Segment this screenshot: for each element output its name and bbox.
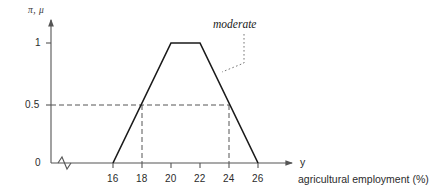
- moderate-set-label: moderate: [213, 19, 256, 31]
- y-axis-label: π, μ: [28, 6, 44, 16]
- x-tick-label-22: 22: [194, 174, 206, 184]
- x-tick-label-26: 26: [252, 174, 264, 184]
- y-tick-label-0-5: 0.5: [25, 100, 40, 110]
- x-axis-variable-label: y: [300, 157, 305, 168]
- fuzzy-membership-chart: π, μ 1 0.5 0 16 18 20 22 24 26 y agricul…: [0, 0, 436, 195]
- membership-function-curve: [113, 43, 258, 163]
- x-axis-description-label: agricultural employment (%): [298, 174, 429, 185]
- y-tick-label-1: 1: [35, 38, 41, 48]
- x-tick-label-18: 18: [136, 174, 148, 184]
- x-tick-label-16: 16: [107, 174, 119, 184]
- x-tick-label-20: 20: [165, 174, 177, 184]
- y-tick-label-0: 0: [35, 158, 41, 168]
- x-tick-label-24: 24: [223, 174, 235, 184]
- moderate-leader-line: [222, 34, 244, 72]
